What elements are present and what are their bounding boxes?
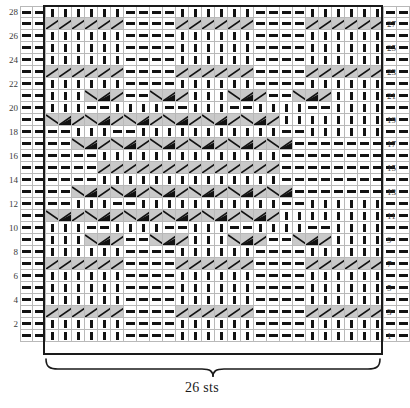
knit-stitch-cell: [98, 246, 111, 258]
right-traveling-stitch-cell: [215, 66, 228, 78]
purl-stitch-cell: [280, 318, 293, 330]
purl-stitch-cell: [228, 102, 241, 114]
purl-stitch-cell: [150, 258, 163, 270]
knit-stitch-cell: [215, 174, 228, 186]
knit-stitch-cell: [98, 270, 111, 282]
purl-stitch-cell: [124, 294, 137, 306]
knit-stitch-cell: [241, 42, 254, 54]
knit-stitch-cell: [241, 270, 254, 282]
right-traveling-stitch-cell: [150, 114, 163, 126]
knit-stitch-cell: [189, 6, 202, 18]
purl-stitch-cell: [20, 102, 33, 114]
knit-stitch-cell: [137, 174, 150, 186]
purl-stitch-cell: [267, 270, 280, 282]
right-traveling-stitch-cell: [358, 66, 371, 78]
knit-stitch-cell: [319, 78, 332, 90]
purl-stitch-cell: [33, 234, 46, 246]
dark-twist-stitch-cell: [241, 186, 254, 198]
purl-stitch-cell: [59, 186, 72, 198]
purl-stitch-cell: [33, 330, 46, 342]
knit-stitch-cell: [111, 222, 124, 234]
knit-stitch-cell: [228, 30, 241, 42]
purl-stitch-cell: [280, 246, 293, 258]
row-number-label: 15: [387, 162, 405, 174]
dark-twist-stitch-cell: [163, 186, 176, 198]
knit-stitch-cell: [293, 102, 306, 114]
knit-stitch-cell: [228, 42, 241, 54]
knit-stitch-cell: [85, 294, 98, 306]
right-traveling-stitch-cell: [111, 66, 124, 78]
right-traveling-stitch-cell: [59, 258, 72, 270]
knit-stitch-cell: [293, 210, 306, 222]
knit-stitch-cell: [72, 90, 85, 102]
purl-stitch-cell: [293, 282, 306, 294]
right-traveling-stitch-cell: [345, 258, 358, 270]
dark-twist-stitch-cell: [202, 138, 215, 150]
right-traveling-stitch-cell: [150, 210, 163, 222]
left-traveling-stitch-cell: [150, 138, 163, 150]
knit-stitch-cell: [46, 6, 59, 18]
knit-stitch-cell: [72, 54, 85, 66]
purl-stitch-cell: [46, 138, 59, 150]
purl-stitch-cell: [280, 282, 293, 294]
knit-stitch-cell: [46, 90, 59, 102]
purl-stitch-cell: [20, 222, 33, 234]
right-traveling-stitch-cell: [241, 18, 254, 30]
right-traveling-stitch-cell: [228, 210, 241, 222]
knit-stitch-cell: [345, 246, 358, 258]
purl-stitch-cell: [267, 234, 280, 246]
knit-stitch-cell: [46, 282, 59, 294]
knit-stitch-cell: [202, 42, 215, 54]
purl-stitch-cell: [124, 258, 137, 270]
knit-stitch-cell: [215, 282, 228, 294]
purl-stitch-cell: [163, 246, 176, 258]
purl-stitch-cell: [124, 30, 137, 42]
left-traveling-stitch-cell: [293, 234, 306, 246]
purl-stitch-cell: [137, 6, 150, 18]
left-traveling-stitch-cell: [72, 186, 85, 198]
knit-stitch-cell: [189, 174, 202, 186]
knit-stitch-cell: [111, 174, 124, 186]
purl-stitch-cell: [163, 294, 176, 306]
knit-stitch-cell: [163, 174, 176, 186]
knit-stitch-cell: [189, 90, 202, 102]
left-traveling-stitch-cell: [202, 114, 215, 126]
purl-stitch-cell: [306, 162, 319, 174]
purl-stitch-cell: [280, 294, 293, 306]
purl-stitch-cell: [267, 30, 280, 42]
knit-stitch-cell: [254, 126, 267, 138]
purl-stitch-cell: [46, 126, 59, 138]
knit-stitch-cell: [98, 282, 111, 294]
right-traveling-stitch-cell: [163, 162, 176, 174]
knit-stitch-cell: [358, 126, 371, 138]
knit-stitch-cell: [176, 318, 189, 330]
purl-stitch-cell: [254, 6, 267, 18]
row-number-label: 6: [0, 270, 18, 282]
knit-stitch-cell: [202, 102, 215, 114]
purl-stitch-cell: [124, 126, 137, 138]
knit-stitch-cell: [176, 282, 189, 294]
purl-stitch-cell: [306, 150, 319, 162]
knit-stitch-cell: [345, 30, 358, 42]
row-number-label: 27: [387, 18, 405, 30]
knit-stitch-cell: [98, 78, 111, 90]
purl-stitch-cell: [137, 90, 150, 102]
right-traveling-stitch-cell: [319, 234, 332, 246]
purl-stitch-cell: [137, 270, 150, 282]
knit-stitch-cell: [358, 30, 371, 42]
dark-twist-stitch-cell: [280, 186, 293, 198]
knit-stitch-cell: [319, 54, 332, 66]
purl-stitch-cell: [137, 282, 150, 294]
purl-stitch-cell: [33, 174, 46, 186]
knit-stitch-cell: [215, 126, 228, 138]
purl-stitch-cell: [293, 54, 306, 66]
knit-stitch-cell: [72, 30, 85, 42]
purl-stitch-cell: [33, 42, 46, 54]
right-traveling-stitch-cell: [98, 186, 111, 198]
purl-stitch-cell: [33, 198, 46, 210]
knit-stitch-cell: [358, 270, 371, 282]
purl-stitch-cell: [137, 30, 150, 42]
purl-stitch-cell: [293, 198, 306, 210]
purl-stitch-cell: [124, 18, 137, 30]
knit-stitch-cell: [371, 234, 384, 246]
